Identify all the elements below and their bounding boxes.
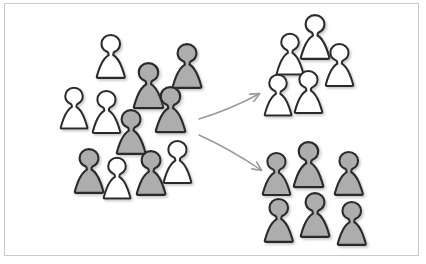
group-mixed-cluster <box>61 35 202 199</box>
person-icon <box>75 149 104 193</box>
person-icon <box>338 202 366 245</box>
person-icon <box>61 88 88 129</box>
person-icon <box>277 34 304 75</box>
person-icon <box>265 199 293 242</box>
person-icon <box>301 193 330 237</box>
group-gray-group <box>263 142 366 245</box>
person-icon <box>164 141 192 183</box>
person-icon <box>263 153 291 195</box>
person-icon <box>265 75 292 116</box>
person-icon <box>326 44 354 86</box>
person-icon <box>97 35 125 78</box>
diagram-scene <box>0 0 426 264</box>
person-icon <box>156 87 185 132</box>
arrow-to-gray-group <box>199 135 261 170</box>
person-icon <box>134 63 163 108</box>
person-icon <box>173 44 202 88</box>
person-icon <box>335 152 363 195</box>
arrows-layer <box>199 94 261 170</box>
person-icon <box>301 15 330 59</box>
person-icon <box>93 91 121 133</box>
arrow-to-white-group <box>199 94 259 119</box>
person-icon <box>137 151 166 195</box>
diagram-canvas <box>0 0 426 264</box>
person-icon <box>104 158 131 199</box>
group-white-group <box>265 15 354 116</box>
person-icon <box>294 142 323 187</box>
person-icon <box>295 71 323 113</box>
